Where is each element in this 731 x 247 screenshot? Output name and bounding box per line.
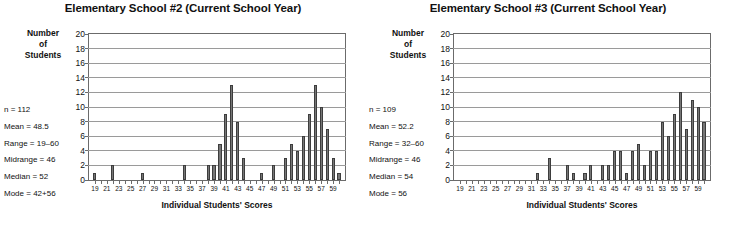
x-tick-mark [196,181,197,184]
x-tick-label: 37 [198,185,205,193]
y-tick-mark [450,180,453,181]
x-tick-mark [543,181,544,184]
x-tick-label: 39 [575,185,582,193]
x-tick-label: 33 [540,185,547,193]
y-tick-label: 2 [71,161,85,170]
histogram-bar [536,173,539,180]
x-tick-mark [561,181,562,184]
y-axis-caption-line-2: of [371,39,445,50]
x-axis-caption-school-2: Individual Students' Scores [88,200,346,210]
y-tick-mark [85,77,88,78]
histogram-bar [141,173,144,180]
x-tick-label: 59 [694,185,701,193]
x-tick-mark [555,181,556,184]
x-tick-mark [525,181,526,184]
y-tick-label: 4 [436,147,450,156]
x-tick-mark [460,181,461,184]
x-tick-mark [567,181,568,184]
y-tick-label: 8 [71,117,85,126]
x-tick-mark [137,181,138,184]
x-tick-mark [160,181,161,184]
x-tick-label: 49 [635,185,642,193]
x-tick-mark [280,181,281,184]
histogram-bar [691,100,694,180]
histogram-bar [619,151,622,180]
x-tick-mark [585,181,586,184]
x-tick-label: 41 [587,185,594,193]
x-tick-mark [609,181,610,184]
x-tick-mark [125,181,126,184]
x-tick-mark [172,181,173,184]
y-tick-label: 20 [71,30,85,39]
histogram-bar [566,165,569,180]
x-tick-mark [549,181,550,184]
y-tick-label: 16 [71,59,85,68]
y-tick-label: 16 [436,59,450,68]
y-axis-caption-line-3: Students [6,50,80,61]
x-tick-mark [692,181,693,184]
x-tick-mark [95,181,96,184]
y-tick-mark [85,34,88,35]
y-tick-mark [85,180,88,181]
histogram-bar [224,114,227,180]
histogram-bar [649,151,652,180]
x-tick-label: 19 [91,185,98,193]
x-tick-label: 21 [103,185,110,193]
x-tick-mark [603,181,604,184]
y-tick-label: 6 [436,132,450,141]
x-tick-mark [262,181,263,184]
x-tick-mark [502,181,503,184]
histogram-bar [661,122,664,180]
x-tick-mark [478,181,479,184]
y-tick-mark [85,48,88,49]
x-tick-mark [297,181,298,184]
y-tick-mark [450,77,453,78]
histogram-bar [589,165,592,180]
x-tick-mark [285,181,286,184]
histogram-bar [607,165,610,180]
x-tick-mark [597,181,598,184]
x-tick-mark [698,181,699,184]
x-tick-mark [496,181,497,184]
x-tick-mark [154,181,155,184]
histogram-bar [601,165,604,180]
x-tick-mark [339,181,340,184]
x-tick-label: 23 [115,185,122,193]
histogram-bar [702,122,705,180]
y-axis-caption-line-2: of [6,39,80,50]
x-tick-mark [662,181,663,184]
x-tick-mark [621,181,622,184]
histogram-bar [326,129,329,180]
x-tick-mark [274,181,275,184]
y-axis-caption-school-2: Number of Students [6,28,80,61]
y-tick-mark [85,136,88,137]
histogram-bar [272,165,275,180]
x-tick-label: 29 [516,185,523,193]
y-tick-label: 18 [436,44,450,53]
x-tick-mark [537,181,538,184]
x-tick-label: 57 [318,185,325,193]
x-tick-mark [531,181,532,184]
x-tick-mark [519,181,520,184]
x-tick-mark [166,181,167,184]
x-tick-label: 45 [246,185,253,193]
x-tick-label: 27 [504,185,511,193]
histogram-bar [697,107,700,180]
histogram-bar [230,85,233,180]
y-axis-caption-line-1: Number [6,28,80,39]
x-tick-mark [131,181,132,184]
x-tick-label: 47 [258,185,265,193]
y-tick-mark [450,136,453,137]
histogram-bar [284,158,287,180]
x-tick-label: 49 [270,185,277,193]
x-tick-mark [250,181,251,184]
x-tick-mark [627,181,628,184]
y-tick-label: 10 [436,103,450,112]
x-tick-mark [591,181,592,184]
y-tick-label: 10 [71,103,85,112]
x-tick-mark [573,181,574,184]
x-tick-mark [668,181,669,184]
x-tick-labels: 1921232527293133353739414345474951535557… [454,185,710,195]
x-tick-label: 43 [599,185,606,193]
x-tick-label: 45 [611,185,618,193]
